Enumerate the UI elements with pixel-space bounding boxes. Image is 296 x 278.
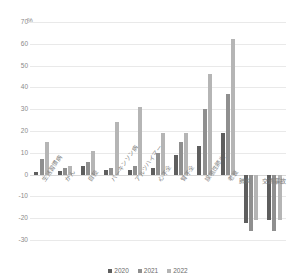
bar-group <box>128 22 142 240</box>
bar-2020-生活習慣病 <box>34 172 38 174</box>
bar-group <box>174 22 188 240</box>
bar-2021-腎不全 <box>179 142 183 175</box>
y-axis: 706050403020100-10-20-30 <box>0 22 28 240</box>
bar-2020-がん <box>58 171 62 174</box>
bar-2021-生活習慣病 <box>40 159 44 174</box>
legend-item-2021[interactable]: 2021 <box>138 268 158 275</box>
x-axis-tick-label: 交通事故 <box>262 178 286 185</box>
bar-group <box>267 22 281 240</box>
bar-chart: % 706050403020100-10-20-30 生活習慣病がん自殺パーキン… <box>0 0 296 278</box>
bar-group <box>221 22 235 240</box>
bar-2022-アルツハイマー <box>138 107 142 175</box>
bar-2020-アルツハイマー <box>128 170 132 174</box>
legend-item-2022[interactable]: 2022 <box>167 268 187 275</box>
legend-swatch-icon <box>138 269 142 273</box>
bar-2020-自殺 <box>81 166 85 175</box>
y-axis-tick-label: 50 <box>4 63 28 70</box>
legend-label: 2020 <box>114 268 128 275</box>
bar-group <box>81 22 95 240</box>
y-axis-tick-label: 70 <box>4 19 28 26</box>
bar-2021-心不全 <box>156 153 160 175</box>
y-axis-tick-label: -30 <box>4 237 28 244</box>
bar-2020-老衰 <box>221 133 225 174</box>
bar-2022-誤嚥性肺炎 <box>208 74 212 174</box>
chart-legend: 202020212022 <box>0 268 296 275</box>
bar-2022-肺炎 <box>254 175 258 221</box>
y-axis-tick-label: 20 <box>4 128 28 135</box>
bar-group <box>58 22 72 240</box>
bar-group <box>104 22 118 240</box>
y-axis-tick-label: 10 <box>4 150 28 157</box>
bar-2021-自殺 <box>86 162 90 175</box>
y-axis-tick-label: 40 <box>4 84 28 91</box>
x-axis-tick-label: 肺炎 <box>239 178 251 185</box>
y-axis-tick-label: 60 <box>4 41 28 48</box>
bar-2020-パーキンソン病 <box>104 170 108 174</box>
bar-group <box>151 22 165 240</box>
legend-item-2020[interactable]: 2020 <box>108 268 128 275</box>
gridline <box>30 240 286 241</box>
bar-2020-誤嚥性肺炎 <box>197 146 201 174</box>
bar-2021-誤嚥性肺炎 <box>203 109 207 174</box>
y-axis-tick-label: 0 <box>4 172 28 179</box>
bar-group <box>34 22 48 240</box>
bar-2020-心不全 <box>151 168 155 175</box>
y-axis-tick-label: -20 <box>4 215 28 222</box>
legend-label: 2021 <box>144 268 158 275</box>
bar-group <box>244 22 258 240</box>
y-axis-tick-label: -10 <box>4 193 28 200</box>
y-axis-tick-label: 30 <box>4 106 28 113</box>
bar-group <box>197 22 211 240</box>
bar-2021-老衰 <box>226 94 230 175</box>
legend-swatch-icon <box>167 269 171 273</box>
bar-2021-アルツハイマー <box>133 166 137 175</box>
bar-2020-腎不全 <box>174 155 178 175</box>
bar-2022-老衰 <box>231 39 235 174</box>
legend-label: 2022 <box>173 268 187 275</box>
plot-area: 生活習慣病がん自殺パーキンソン病アルツハイマー心不全腎不全誤嚥性肺炎老衰肺炎交通… <box>30 22 286 240</box>
legend-swatch-icon <box>108 269 112 273</box>
